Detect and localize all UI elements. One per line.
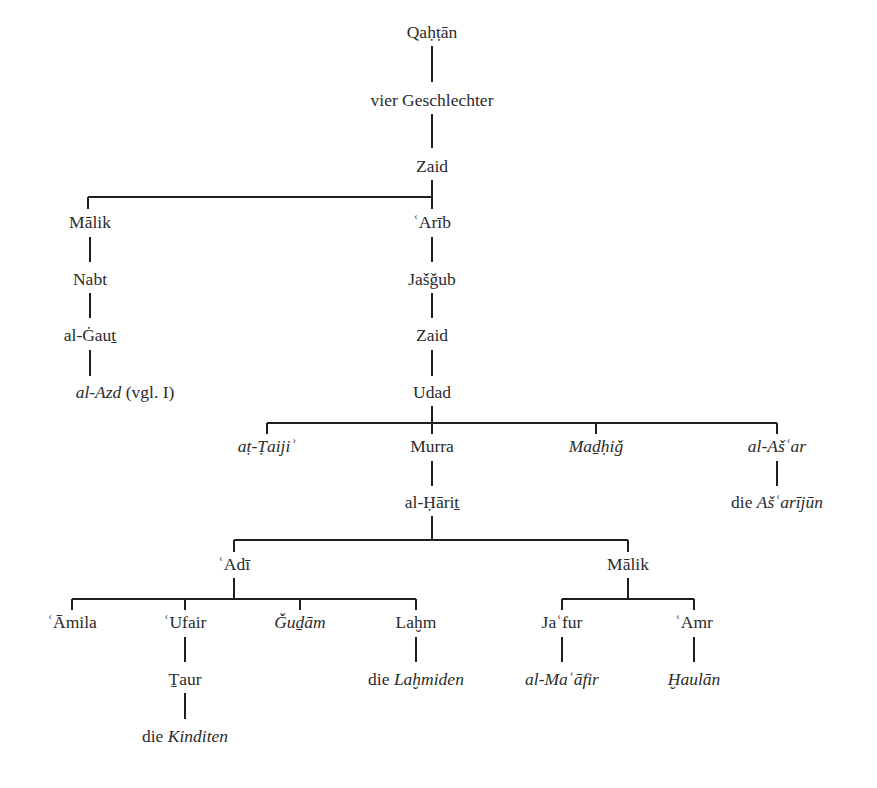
- node-label: ʿAdī: [218, 554, 250, 574]
- node-label: Laḫmiden: [394, 669, 464, 689]
- tree-node-qahtan: Qaḥṭān: [407, 22, 458, 42]
- node-label: Kinditen: [168, 726, 228, 746]
- tree-node-madhig: Maḏḥiǧ: [569, 436, 623, 456]
- tree-node-malik2: Mālik: [607, 554, 649, 574]
- node-label: ʿUfair: [164, 612, 207, 632]
- node-label: aṭ-Ṭaijiʾ: [238, 436, 296, 456]
- tree-node-jafur: Jaʿfur: [542, 612, 583, 632]
- node-label: Ḫaulān: [668, 669, 721, 689]
- tree-node-ufair: ʿUfair: [164, 612, 207, 632]
- node-label: al-Ḥāriṯ: [405, 492, 459, 512]
- tree-node-haulan: Ḫaulān: [668, 669, 721, 689]
- node-label: vier Geschlechter: [371, 90, 494, 110]
- node-label: Nabt: [73, 269, 107, 289]
- node-label: Qaḥṭān: [407, 22, 458, 42]
- tree-node-udad: Udad: [413, 382, 451, 402]
- node-label: ʿĀmila: [47, 612, 97, 632]
- node-label: Jaʿfur: [542, 612, 583, 632]
- node-label: al-Azd: [76, 382, 122, 402]
- tree-node-arib: ʿArīb: [413, 212, 451, 232]
- node-label: die: [731, 492, 757, 512]
- tree-node-harit: al-Ḥāriṯ: [405, 492, 459, 512]
- tree-node-taiji: aṭ-Ṭaijiʾ: [238, 436, 296, 456]
- tree-node-gudam: Ǧuḏām: [274, 612, 326, 632]
- node-label: Murra: [410, 436, 454, 456]
- node-label: (vgl. I): [121, 382, 174, 402]
- tree-node-zaid2: Zaid: [416, 325, 448, 345]
- node-label: ʿAmr: [675, 612, 713, 632]
- node-label: die: [142, 726, 168, 746]
- tree-node-amr: ʿAmr: [675, 612, 713, 632]
- node-label: Zaid: [416, 156, 448, 176]
- tree-node-jasgub: Jašǧub: [408, 269, 456, 289]
- tree-node-maafir: al-Maʿāfir: [525, 669, 599, 689]
- tree-node-murra: Murra: [410, 436, 454, 456]
- tree-node-lahm: Laḫm: [396, 612, 437, 632]
- tree-node-asar: al-Ašʿar: [748, 436, 806, 456]
- node-label: Udad: [413, 382, 451, 402]
- tree-node-malik1: Mālik: [69, 212, 111, 232]
- tree-node-taur: Ṯaur: [168, 669, 201, 689]
- tree-node-amila: ʿĀmila: [47, 612, 97, 632]
- tree-node-nabt: Nabt: [73, 269, 107, 289]
- node-label: Zaid: [416, 325, 448, 345]
- node-label: Ṯaur: [168, 669, 201, 689]
- node-label: Laḫm: [396, 612, 437, 632]
- node-label: ʿArīb: [413, 212, 451, 232]
- node-label: Mālik: [69, 212, 111, 232]
- node-label: al-Ašʿar: [748, 436, 806, 456]
- node-label: die: [368, 669, 394, 689]
- node-label: Jašǧub: [408, 269, 456, 289]
- tree-node-kinditen: die Kinditen: [142, 726, 228, 746]
- tree-node-asarijun: die Ašʿarījūn: [731, 492, 823, 512]
- node-label: Ǧuḏām: [274, 612, 326, 632]
- node-label: al-Maʿāfir: [525, 669, 599, 689]
- node-label: Ašʿarījūn: [757, 492, 823, 512]
- node-label: Maḏḥiǧ: [569, 436, 623, 456]
- tree-node-azd: al-Azd (vgl. I): [76, 382, 175, 402]
- tree-node-vier: vier Geschlechter: [371, 90, 494, 110]
- node-label: al-Ġauṯ: [64, 325, 116, 345]
- tree-node-adi: ʿAdī: [218, 554, 250, 574]
- tree-node-zaid1: Zaid: [416, 156, 448, 176]
- tree-node-lahmiden: die Laḫmiden: [368, 669, 464, 689]
- node-label: Mālik: [607, 554, 649, 574]
- tree-node-gaut: al-Ġauṯ: [64, 325, 116, 345]
